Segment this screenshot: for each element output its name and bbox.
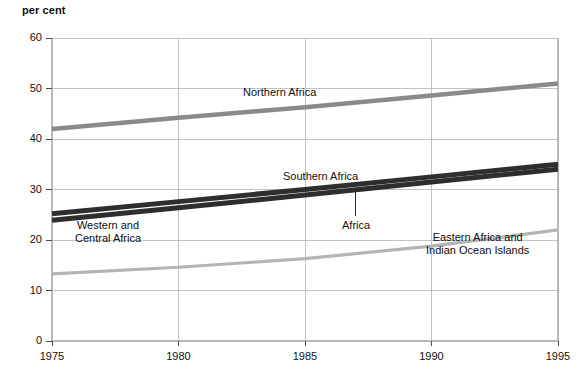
annotation-africa: Africa [342, 219, 370, 232]
annotation-western-central-africa: Western and Central Africa [75, 219, 141, 244]
x-tick-label: 1995 [533, 350, 579, 362]
x-tick-label: 1980 [154, 350, 204, 362]
y-tick-label: 60 [8, 31, 42, 43]
x-tick-label: 1985 [280, 350, 330, 362]
y-tick-label: 30 [8, 183, 42, 195]
chart-plot-svg [0, 0, 579, 382]
y-tick-label: 20 [8, 233, 42, 245]
chart-container: per cent 6050403020100 19751980198519901… [0, 0, 579, 382]
y-tick-label: 0 [8, 334, 42, 346]
annotation-northern-africa: Northern Africa [243, 86, 316, 99]
annotation-southern-africa: Southern Africa [283, 170, 358, 183]
y-tick-label: 50 [8, 82, 42, 94]
x-tick-label: 1990 [407, 350, 457, 362]
y-tick-label: 40 [8, 132, 42, 144]
x-tick-label: 1975 [27, 350, 77, 362]
y-tick-label: 10 [8, 284, 42, 296]
annotation-eastern-africa: Eastern Africa and Indian Ocean Islands [426, 231, 529, 256]
